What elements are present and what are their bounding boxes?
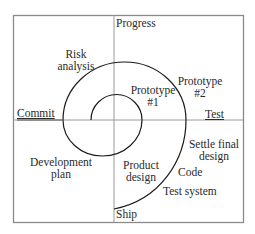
spiral-diagram: Progress Commit Test Ship Risk analysis …: [0, 0, 255, 234]
development-plan-label: Development plan: [22, 156, 100, 180]
settle-final-design-label: Settle final design: [182, 138, 246, 162]
progress-axis-label: Progress: [116, 17, 156, 29]
product-design-label: Product design: [113, 159, 169, 183]
ship-axis-label: Ship: [116, 208, 137, 220]
commit-axis-label: Commit: [17, 107, 55, 119]
test-system-label: Test system: [163, 185, 217, 197]
code-label: Code: [178, 166, 202, 178]
prototype-2-label: Prototype #2: [170, 75, 230, 99]
risk-analysis-label: Risk analysis: [46, 48, 106, 72]
test-axis-label: Test: [205, 108, 224, 120]
